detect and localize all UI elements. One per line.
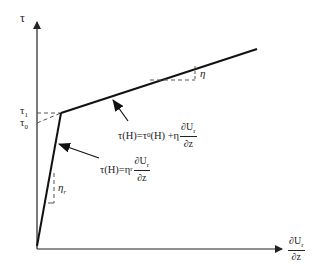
tau0-guide	[37, 113, 61, 123]
steep-segment	[37, 113, 61, 246]
x-label-denominator: ∂z	[292, 251, 301, 262]
x-label-sub: r	[301, 241, 303, 249]
lower-equation: τ(H)=ηr ∂Ur ∂z	[100, 155, 150, 183]
lower-pointer-arrow	[59, 144, 99, 158]
upper-equation: τ(H)=τ0(H) +η ∂Ur ∂z	[118, 121, 197, 149]
x-label-numerator: ∂U	[289, 235, 301, 246]
slope-label-eta-r: ηr	[58, 182, 66, 196]
tick-label-tau0: τ0	[20, 117, 28, 131]
slope-label-eta: η	[200, 68, 205, 79]
shallow-segment	[61, 49, 257, 113]
y-axis-label: τ	[20, 12, 25, 24]
upper-pointer-arrow	[113, 100, 128, 121]
x-axis-label: ∂Ur ∂z	[287, 236, 305, 262]
